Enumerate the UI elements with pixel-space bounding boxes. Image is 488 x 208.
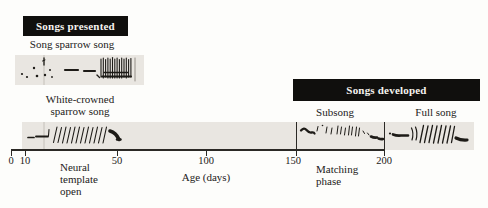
matching-phase-label: Matching phase — [316, 163, 386, 187]
white-crowned-label-line1: White-crowned — [30, 93, 130, 105]
axis-divider-200 — [384, 122, 385, 156]
white-crowned-label-line2: sparrow song — [30, 105, 130, 117]
white-crowned-sparrow-song-label: White-crowned sparrow song — [30, 93, 130, 117]
song-learning-figure: Songs presented Song sparrow song — [0, 0, 488, 208]
axis-divider-150 — [296, 122, 297, 156]
songs-developed-banner: Songs developed — [293, 79, 480, 101]
timeline-spectrogram-marks — [22, 122, 474, 150]
neural-template-line2: template — [60, 173, 130, 185]
songs-presented-banner: Songs presented — [23, 16, 128, 36]
neural-template-line3: open — [60, 185, 130, 197]
tick-label-150: 150 — [280, 155, 306, 166]
matching-phase-line1: Matching — [316, 163, 386, 175]
neural-template-open-label: Neural template open — [60, 161, 130, 197]
song-sparrow-spectrogram-marks — [15, 55, 144, 85]
timeline-spectrogram — [22, 122, 474, 150]
matching-phase-line2: phase — [316, 175, 386, 187]
song-sparrow-spectrogram — [15, 55, 144, 85]
tick-label-100: 100 — [193, 155, 219, 166]
full-song-label: Full song — [406, 106, 466, 118]
tick-label-10: 10 — [12, 155, 38, 166]
subsong-label: Subsong — [305, 106, 365, 118]
neural-template-line1: Neural — [60, 161, 130, 173]
song-sparrow-song-label: Song sparrow song — [20, 38, 124, 50]
age-axis-title: Age (days) — [176, 171, 236, 183]
age-axis-line — [11, 149, 385, 151]
